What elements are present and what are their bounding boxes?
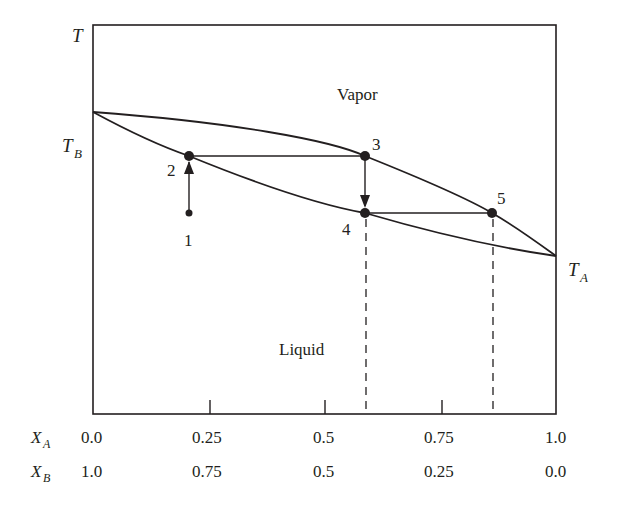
x-a-tick-2: 0.5 (313, 428, 334, 447)
point-5-label: 5 (497, 189, 506, 208)
x-b-tick-3: 0.25 (424, 462, 454, 481)
x-a-tick-4: 1.0 (545, 428, 566, 447)
bubble-point-curve (93, 112, 556, 256)
t-a-sub: A (579, 270, 588, 285)
plot-frame (93, 25, 556, 414)
point-2-marker (184, 151, 194, 161)
point-4-label: 4 (342, 220, 351, 239)
x-a-axis: X A 0.0 0.25 0.5 0.75 1.0 (30, 428, 566, 451)
liquid-region-label: Liquid (279, 340, 325, 359)
y-axis-label: T (72, 25, 84, 46)
x-a-tick-0: 0.0 (81, 428, 102, 447)
x-a-tick-1: 0.25 (192, 428, 222, 447)
point-1-marker (186, 210, 193, 217)
x-b-tick-1: 0.75 (192, 462, 222, 481)
x-b-axis: X B 1.0 0.75 0.5 0.25 0.0 (30, 462, 566, 485)
arrowhead-down-icon (360, 195, 370, 208)
t-b-label: T B (62, 135, 82, 161)
point-3-label: 3 (372, 135, 381, 154)
x-b-sub: B (43, 471, 51, 485)
phase-diagram: 1 2 3 4 5 Vapor Liquid T T B T A X A 0.0… (0, 0, 626, 508)
t-b-main: T (62, 135, 74, 156)
point-3-marker (360, 151, 370, 161)
x-b-tick-0: 1.0 (81, 462, 102, 481)
t-a-main: T (568, 259, 580, 280)
dew-point-curve (93, 112, 556, 256)
x-b-tick-4: 0.0 (545, 462, 566, 481)
point-1-label: 1 (184, 231, 193, 250)
t-a-label: T A (568, 259, 588, 285)
x-axis-ticks (210, 400, 442, 414)
t-b-sub: B (74, 146, 82, 161)
point-2-label: 2 (167, 161, 176, 180)
point-5-marker (487, 208, 497, 218)
x-a-main: X (30, 428, 42, 447)
arrowhead-up-icon (184, 161, 194, 174)
x-b-main: X (30, 462, 42, 481)
point-4-marker (360, 208, 370, 218)
x-a-tick-3: 0.75 (424, 428, 454, 447)
x-a-sub: A (42, 437, 51, 451)
vapor-region-label: Vapor (337, 85, 378, 104)
x-b-tick-2: 0.5 (313, 462, 334, 481)
